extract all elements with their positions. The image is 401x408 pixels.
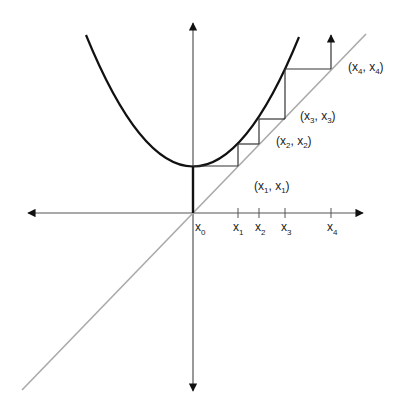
label-x3: x3 [281,220,292,237]
label-x2: x2 [255,220,266,237]
label-point-x3: (x3, x3) [300,109,336,125]
label-x1: x1 [233,220,244,237]
cobweb-diagram: x0 x1 x2 x3 x4 (x1, x1) (x2, x2) (x3, x3… [0,0,401,408]
label-point-x1: (x1, x1) [254,179,290,195]
label-x4: x4 [327,220,338,237]
label-point-x4: (x4, x4) [348,60,384,76]
label-x0: x0 [195,220,206,237]
label-point-x2: (x2, x2) [276,134,312,150]
